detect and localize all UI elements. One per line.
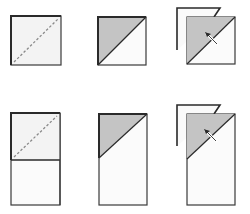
square-step-1 bbox=[11, 16, 61, 65]
folding-diagram bbox=[0, 0, 250, 214]
rectangle-step-1 bbox=[11, 113, 60, 205]
square-step-2 bbox=[98, 17, 146, 65]
square-step-3 bbox=[177, 8, 235, 64]
rectangle-step-2 bbox=[99, 114, 147, 205]
rectangle-step-3 bbox=[177, 105, 235, 205]
